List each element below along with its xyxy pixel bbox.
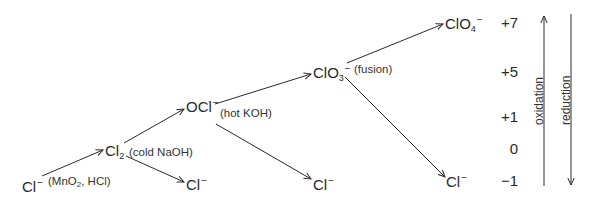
species-base: ClO	[445, 15, 471, 32]
arrow-ocl-to-cl	[216, 124, 311, 179]
condition-hot-koh: (hot KOH)	[220, 108, 272, 120]
arrow-clo3-to-cl	[345, 77, 445, 177]
species-clo3-minus: ClO3−	[313, 64, 351, 83]
condition-cold-naoh: (cold NaOH)	[129, 147, 193, 159]
arrow-ocl-to-clo3	[215, 74, 311, 104]
oxidation-state-plus5: +5	[496, 64, 518, 79]
arrow-cl2-to-ocl	[124, 109, 184, 143]
species-base: Cl	[446, 173, 460, 190]
species-base: Cl	[186, 176, 200, 193]
species-charge: −	[461, 172, 467, 183]
species-charge: −	[328, 175, 334, 186]
condition-text: , HCl)	[81, 175, 110, 187]
species-ocl-minus: OCl−	[186, 98, 219, 114]
arrow-cl2-to-cl	[126, 156, 184, 182]
oxidation-state-zero: 0	[496, 141, 518, 156]
species-cl-minus-from-clo3: Cl−	[446, 173, 467, 189]
species-subscript: 3	[339, 73, 344, 83]
species-base: Cl	[313, 176, 327, 193]
reduction-label: reduction	[560, 76, 572, 125]
arrow-cl-to-cl2	[42, 150, 103, 176]
species-cl2: Cl2	[105, 143, 124, 161]
species-base: Cl	[105, 142, 119, 159]
species-subscript: 4	[471, 24, 476, 34]
oxidation-state-minus1: −1	[496, 173, 518, 188]
condition-text: (MnO	[48, 175, 77, 187]
condition-fusion: (fusion)	[354, 64, 392, 76]
species-base: Cl	[22, 178, 36, 195]
species-charge: −	[201, 175, 207, 186]
condition-mno2-hcl: (MnO2, HCl)	[48, 176, 111, 189]
species-base: ClO	[313, 64, 339, 81]
species-charge: −	[37, 177, 43, 188]
species-charge: −	[477, 14, 483, 25]
species-base: OCl	[186, 98, 212, 115]
species-cl-minus-start: Cl−	[22, 178, 43, 194]
species-charge: −	[345, 63, 351, 74]
species-cl-minus-from-ocl: Cl−	[313, 176, 334, 192]
oxidation-state-plus1: +1	[496, 109, 518, 124]
oxidation-state-plus7: +7	[496, 15, 518, 30]
species-subscript: 2	[119, 151, 124, 161]
species-cl-minus-from-cl2: Cl−	[186, 176, 207, 192]
arrow-clo3-to-clo4	[347, 24, 443, 63]
species-charge: −	[213, 97, 219, 108]
species-clo4-minus: ClO4−	[445, 15, 483, 34]
oxidation-label: oxidation	[533, 77, 545, 125]
